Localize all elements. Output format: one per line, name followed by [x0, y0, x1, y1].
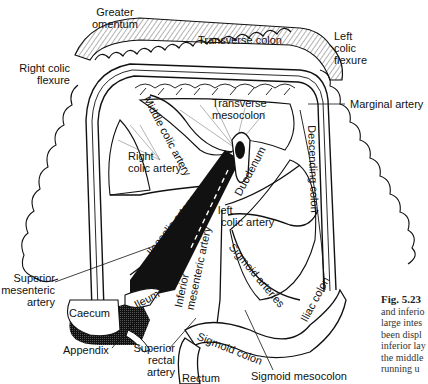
label-greater-omentum: Greater omentum: [92, 6, 138, 30]
label-sigmoid-mesocolon: Sigmoid mesocolon: [251, 370, 347, 382]
caption-line: running u: [381, 363, 428, 375]
label-line: mesocolon: [212, 109, 267, 121]
label-rectum: Rectum: [182, 372, 220, 384]
label-line: rectal: [125, 354, 175, 366]
label-line: Greater: [92, 6, 138, 18]
label-superior-mesenteric-artery: Superior mesenteric artery: [0, 272, 55, 308]
label-line: Right: [128, 150, 181, 162]
label-line: omentum: [92, 18, 138, 30]
caption-line: large intes: [381, 317, 428, 329]
label-line: mesenteric: [0, 284, 55, 296]
caption-line: inferior lay: [381, 340, 428, 352]
label-line: Superior: [0, 272, 55, 284]
label-line: Left: [334, 30, 367, 42]
label-marginal-artery: Marginal artery: [350, 98, 423, 110]
label-superior-rectal-artery: Superior rectal artery: [125, 342, 175, 378]
inferior-mesenteric-line: [215, 210, 222, 340]
transverse-colon-pleats: [135, 84, 295, 95]
label-line: left: [218, 204, 274, 216]
label-line: Superior: [125, 342, 175, 354]
label-transverse-colon: Transverse colon: [198, 34, 282, 46]
label-line: colic artery: [128, 162, 181, 174]
label-appendix: Appendix: [63, 344, 109, 356]
label-left-colic-flexure: Left colic flexure: [334, 30, 367, 66]
caption-line: and inferio: [381, 306, 428, 318]
label-line: colic: [334, 42, 367, 54]
label-caecum: Caecum: [69, 307, 110, 319]
label-line: Transverse: [212, 97, 267, 109]
label-left-colic-artery: left colic artery: [218, 204, 274, 228]
caption-line: been displ: [381, 329, 428, 341]
label-transverse-mesocolon: Transverse mesocolon: [212, 97, 267, 121]
caption-line: the middle: [381, 352, 428, 364]
label-line: artery: [125, 366, 175, 378]
label-line: colic artery: [218, 216, 274, 228]
figure-number: Fig. 5.23: [381, 294, 428, 306]
label-line: flexure: [10, 74, 70, 86]
label-right-colic-artery: Right colic artery: [128, 150, 181, 174]
label-line: flexure: [334, 54, 367, 66]
label-line: artery: [0, 296, 55, 308]
figure-caption: Fig. 5.23 and inferio large intes been d…: [381, 294, 428, 375]
label-right-colic-flexure: Right colic flexure: [10, 62, 70, 86]
label-line: Right colic: [10, 62, 70, 74]
